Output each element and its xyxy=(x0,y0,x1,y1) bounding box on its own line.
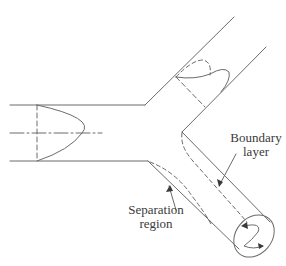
boundary-layer-label: Boundary layer xyxy=(226,131,286,159)
separation-region-label: Separation region xyxy=(118,203,194,231)
boundary-layer-label-line1: Boundary xyxy=(226,131,286,145)
separation-region-label-line1: Separation xyxy=(118,203,194,217)
upper-profile-reverse-dashed xyxy=(176,60,210,77)
separation-region-label-line2: region xyxy=(118,217,194,231)
outlet-cross-section xyxy=(225,207,282,265)
boundary-layer-label-line2: layer xyxy=(226,145,286,159)
upper-profile-baseline xyxy=(176,77,205,107)
separation-region-arrowhead xyxy=(166,185,173,192)
upper-inner-wall xyxy=(182,47,266,132)
upper-branch xyxy=(145,17,266,132)
inlet-pipe xyxy=(10,105,148,161)
upper-velocity-profile xyxy=(176,69,229,92)
swirl-arrowhead-bottom xyxy=(258,243,264,249)
